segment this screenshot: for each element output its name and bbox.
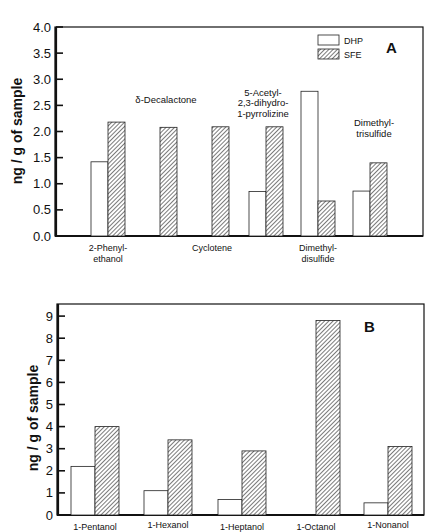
bar-sfe (212, 127, 229, 236)
category-label: Cyclotene (192, 243, 232, 253)
category-label: 1-Nonanol (367, 520, 409, 530)
category-label: 1-Hexanol (147, 520, 188, 530)
bar-sfe (160, 127, 177, 236)
category-annotation: trisulfide (356, 128, 391, 139)
chart-b-category-labels: 1-Pentanol1-Hexanol1-Heptanol1-Octanol1-… (73, 520, 409, 532)
y-tick-label: 5 (46, 397, 53, 412)
y-tick-label: 2.0 (33, 124, 51, 139)
legend-swatch-sfe (318, 49, 339, 59)
bar-sfe (95, 427, 119, 515)
y-tick-label: 0.5 (33, 202, 51, 217)
legend-label-sfe: SFE (344, 50, 362, 60)
legend-label-dhp: DHP (344, 36, 363, 46)
category-label: 2-Phenyl- (89, 243, 128, 253)
y-tick-label: 3.5 (33, 46, 51, 61)
chart-b-y-axis-label: ng / g of sample (25, 365, 41, 472)
category-label: Dimethyl- (299, 243, 337, 253)
bar-dhp (353, 191, 370, 236)
category-label: 1-Octanol (296, 522, 335, 532)
category-label: ethanol (93, 254, 123, 264)
y-tick-label: 2 (46, 463, 53, 478)
legend-swatch-dhp (318, 35, 339, 45)
y-tick-label: 9 (46, 309, 53, 324)
y-tick-label: 0.0 (33, 229, 51, 244)
y-tick-label: 6 (46, 375, 53, 390)
figure: 0.00.51.01.52.02.53.03.54.0 2-Phenyl-eth… (0, 0, 435, 532)
category-annotation: 1-pyrrolizine (237, 108, 289, 119)
bar-sfe (388, 446, 412, 515)
chart-a-panel-letter: A (386, 39, 397, 56)
bar-sfe (370, 163, 387, 236)
bar-sfe (266, 127, 283, 236)
bar-dhp (218, 500, 242, 515)
bar-dhp (301, 91, 318, 236)
chart-a-category-labels: 2-Phenyl-ethanolCycloteneDimethyl-disulf… (89, 87, 394, 264)
category-label: 1-Heptanol (220, 522, 264, 532)
y-tick-label: 2.5 (33, 98, 51, 113)
bar-dhp (364, 503, 388, 515)
y-tick-label: 3.0 (33, 72, 51, 87)
legend: DHP SFE (318, 35, 363, 60)
category-label: 1-Pentanol (73, 522, 117, 532)
category-annotation: δ-Decalactone (135, 94, 196, 105)
category-annotation: 5-Acetyl- (244, 87, 281, 98)
y-tick-label: 1 (46, 485, 53, 500)
bar-dhp (71, 466, 95, 515)
bar-dhp (144, 491, 168, 515)
y-tick-label: 3 (46, 441, 53, 456)
chart-b: 0123456789 1-Pentanol1-Hexanol1-Heptanol… (25, 304, 424, 532)
bar-dhp (249, 192, 266, 236)
y-tick-label: 8 (46, 331, 53, 346)
chart-b-bars (71, 321, 412, 515)
bar-sfe (242, 451, 266, 515)
y-tick-label: 4.0 (33, 20, 51, 35)
category-annotation: Dimethyl- (354, 117, 394, 128)
bar-sfe (168, 440, 192, 515)
y-tick-label: 4 (46, 419, 53, 434)
y-tick-label: 1.5 (33, 150, 51, 165)
y-tick-label: 1.0 (33, 176, 51, 191)
bar-sfe (318, 201, 335, 236)
category-label: disulfide (301, 254, 334, 264)
bar-dhp (91, 162, 108, 236)
category-annotation: 2,3-dihydro- (238, 97, 289, 108)
y-tick-label: 7 (46, 353, 53, 368)
chart-a-y-ticks: 0.00.51.01.52.02.53.03.54.0 (33, 20, 63, 244)
y-tick-label: 0 (46, 508, 53, 523)
bar-sfe (316, 321, 340, 515)
chart-a-y-axis-label: ng / g of sample (9, 78, 25, 185)
chart-b-y-ticks: 0123456789 (46, 309, 65, 523)
bar-sfe (108, 122, 125, 236)
chart-a: 0.00.51.01.52.02.53.03.54.0 2-Phenyl-eth… (9, 20, 423, 265)
chart-b-panel-letter: B (364, 318, 375, 335)
